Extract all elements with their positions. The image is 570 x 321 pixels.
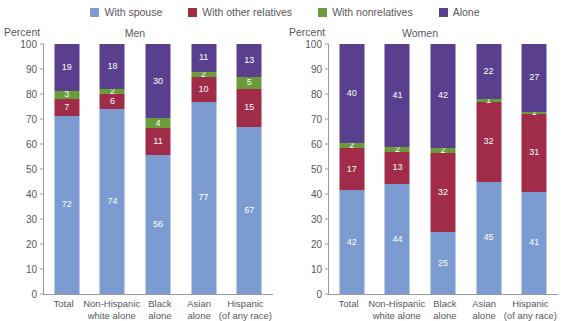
x-tick-label-line: alone xyxy=(179,310,218,321)
bar-segment[interactable]: 13 xyxy=(237,44,262,77)
bar-value-label: 15 xyxy=(244,103,254,112)
bar-segment[interactable]: 1 xyxy=(476,99,501,102)
bar-value-label: 41 xyxy=(529,238,539,247)
x-tick-label-line: Hispanic xyxy=(504,298,557,310)
stacked-bar[interactable]: 746218 xyxy=(100,44,125,294)
bar-value-label: 6 xyxy=(110,97,115,106)
bars-container: 42172404413241253224245321224131127 xyxy=(329,44,557,294)
x-axis-line xyxy=(43,294,273,295)
bar-value-label: 72 xyxy=(62,200,72,209)
bar-column: 5611430 xyxy=(135,44,181,294)
bar-segment[interactable]: 32 xyxy=(430,153,455,232)
bar-value-label: 25 xyxy=(438,259,448,268)
stacked-bar[interactable]: 4532122 xyxy=(476,44,501,294)
panel-title: Women xyxy=(305,27,535,39)
legend-item-other_relatives: With other relatives xyxy=(188,6,292,18)
bar-segment[interactable]: 25 xyxy=(430,232,455,294)
bar-segment[interactable]: 7 xyxy=(54,99,79,116)
bar-value-label: 11 xyxy=(153,137,162,146)
x-tick-label: Hispanic(of any race) xyxy=(219,298,272,321)
x-axis-line xyxy=(328,294,558,295)
bar-segment[interactable]: 2 xyxy=(191,72,216,77)
legend-item-alone: Alone xyxy=(439,6,480,18)
stacked-bar[interactable]: 4413241 xyxy=(385,44,410,294)
bar-segment[interactable]: 41 xyxy=(522,192,547,295)
legend-swatch-nonrelatives-icon xyxy=(318,8,327,17)
x-tick-label: Blackalone xyxy=(140,298,179,321)
legend-label: With spouse xyxy=(104,6,162,18)
x-axis-labels: TotalNon-Hispanicwhite aloneBlackaloneAs… xyxy=(44,298,272,321)
bar-segment[interactable]: 6 xyxy=(100,94,125,109)
bar-segment[interactable]: 74 xyxy=(100,109,125,294)
bar-segment[interactable]: 15 xyxy=(237,89,262,127)
bar-segment[interactable]: 77 xyxy=(191,102,216,295)
x-tick-label: Hispanic(of any race) xyxy=(504,298,557,321)
stacked-bar[interactable]: 4217240 xyxy=(339,44,364,294)
bars-container: 727319746218561143077102116715513 xyxy=(44,44,272,294)
bar-value-label: 56 xyxy=(153,220,163,229)
bar-value-label: 31 xyxy=(529,148,539,157)
x-tick-label-line: white alone xyxy=(368,310,425,321)
bar-segment[interactable]: 30 xyxy=(145,44,170,118)
bar-segment[interactable]: 10 xyxy=(191,77,216,102)
chart-panel-women: PercentWomen0102030405060708090100421724… xyxy=(285,26,570,316)
bar-segment[interactable]: 56 xyxy=(145,155,170,294)
stacked-bar[interactable]: 6715513 xyxy=(237,44,262,294)
bar-segment[interactable]: 2 xyxy=(385,147,410,152)
bar-segment[interactable]: 41 xyxy=(385,44,410,147)
stacked-bar[interactable]: 4131127 xyxy=(522,44,547,294)
bar-segment[interactable]: 19 xyxy=(54,44,79,91)
bar-segment[interactable]: 17 xyxy=(339,148,364,190)
x-tick-label: Blackalone xyxy=(425,298,464,321)
x-tick-label: Total xyxy=(329,298,368,321)
x-tick-label-line: (of any race) xyxy=(504,310,557,321)
bar-value-label: 30 xyxy=(153,77,163,86)
bar-segment[interactable]: 18 xyxy=(100,44,125,89)
bar-segment[interactable]: 42 xyxy=(339,190,364,294)
x-tick-label-line: Black xyxy=(425,298,464,310)
legend-label: With nonrelatives xyxy=(332,6,413,18)
stacked-bar[interactable]: 727319 xyxy=(54,44,79,294)
bar-segment[interactable]: 5 xyxy=(237,77,262,90)
bar-value-label: 40 xyxy=(347,89,357,98)
bar-segment[interactable]: 11 xyxy=(191,44,216,72)
bar-column: 746218 xyxy=(90,44,136,294)
bar-value-label: 45 xyxy=(484,233,494,242)
bar-segment[interactable]: 4 xyxy=(145,118,170,128)
bar-value-label: 7 xyxy=(64,103,69,112)
bar-segment[interactable]: 2 xyxy=(100,89,125,94)
bar-segment[interactable]: 44 xyxy=(385,184,410,294)
bar-segment[interactable]: 42 xyxy=(430,44,455,148)
stacked-bar[interactable]: 5611430 xyxy=(145,44,170,294)
bar-column: 4131127 xyxy=(511,44,557,294)
bar-segment[interactable]: 2 xyxy=(430,148,455,153)
bar-column: 4413241 xyxy=(375,44,421,294)
stacked-bar[interactable]: 2532242 xyxy=(430,44,455,294)
stacked-bar[interactable]: 7710211 xyxy=(191,44,216,294)
x-tick-label-line: alone xyxy=(140,310,179,321)
bar-segment[interactable]: 31 xyxy=(522,114,547,192)
plot-area: 0102030405060708090100727319746218561143… xyxy=(44,44,272,294)
bar-segment[interactable]: 67 xyxy=(237,127,262,295)
bar-segment[interactable]: 22 xyxy=(476,44,501,99)
bar-segment[interactable]: 2 xyxy=(339,143,364,148)
panel-title: Men xyxy=(20,27,250,39)
bar-value-label: 67 xyxy=(244,206,254,215)
bar-segment[interactable]: 45 xyxy=(476,182,501,295)
bar-column: 2532242 xyxy=(420,44,466,294)
plot-area: 0102030405060708090100421724044132412532… xyxy=(329,44,557,294)
bar-value-label: 3 xyxy=(64,90,69,99)
chart-panels: PercentMen010203040506070809010072731974… xyxy=(0,26,570,316)
bar-segment[interactable]: 72 xyxy=(54,116,79,294)
bar-segment[interactable]: 32 xyxy=(476,102,501,182)
bar-segment[interactable]: 11 xyxy=(145,128,170,155)
bar-segment[interactable]: 13 xyxy=(385,152,410,185)
bar-segment[interactable]: 3 xyxy=(54,91,79,99)
bar-segment[interactable]: 1 xyxy=(522,112,547,115)
bar-segment[interactable]: 27 xyxy=(522,44,547,112)
bar-value-label: 44 xyxy=(392,235,402,244)
bar-segment[interactable]: 40 xyxy=(339,44,364,143)
x-tick-label: Total xyxy=(44,298,83,321)
legend-label: With other relatives xyxy=(202,6,292,18)
x-tick-label-line: alone xyxy=(425,310,464,321)
